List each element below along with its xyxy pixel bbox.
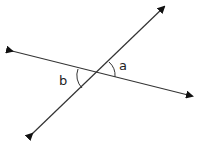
- line-diagonal: [32, 7, 164, 134]
- line-horizontal: [12, 51, 192, 96]
- intersecting-lines-diagram: a b: [0, 0, 198, 144]
- angle-a-arc: [109, 62, 115, 77]
- angle-b-label: b: [59, 73, 67, 88]
- angle-a-label: a: [119, 58, 127, 73]
- angle-b-arc: [77, 69, 82, 88]
